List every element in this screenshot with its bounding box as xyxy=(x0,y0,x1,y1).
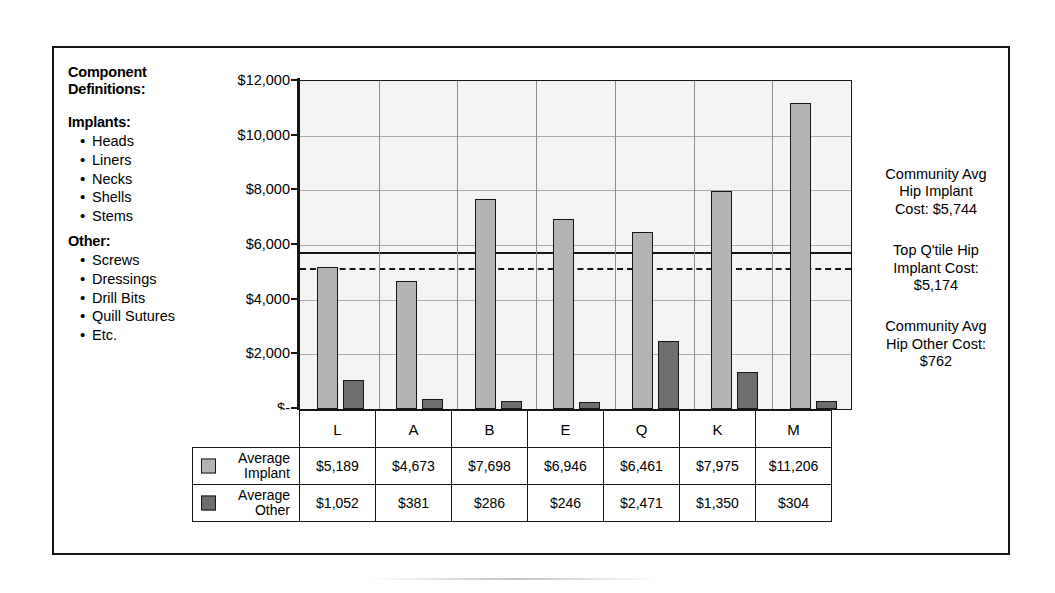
bar-Q-implant xyxy=(632,232,653,409)
category-label-L: L xyxy=(300,411,376,448)
scan-artifact xyxy=(370,578,660,580)
legend-swatch-implant-icon xyxy=(201,459,216,474)
category-divider xyxy=(615,81,616,409)
y-tick-mark xyxy=(291,352,299,354)
list-item: Shells xyxy=(80,189,243,206)
cell-E-other: $246 xyxy=(528,485,604,522)
gridline xyxy=(300,136,851,137)
bar-M-other xyxy=(816,401,837,409)
cell-K-implant: $7,975 xyxy=(680,448,756,485)
category-label-K: K xyxy=(680,411,756,448)
bar-A-other xyxy=(422,399,443,409)
plot-area xyxy=(299,80,852,410)
cell-B-other: $286 xyxy=(452,485,528,522)
list-item: Quill Sutures xyxy=(80,308,243,325)
figure-frame: Component Definitions: Implants: Heads L… xyxy=(52,46,1010,555)
bar-K-other xyxy=(737,372,758,409)
legend-row-implant: Average Implant xyxy=(193,448,300,485)
cell-L-implant: $5,189 xyxy=(300,448,376,485)
annotation-line: $5,174 xyxy=(866,277,1006,294)
reference-line-solid xyxy=(300,252,851,254)
y-tick-label: $12,000 xyxy=(238,72,290,88)
bar-L-other xyxy=(343,380,364,409)
series-label-line2: Other xyxy=(255,502,290,518)
table-row: Average Other $1,052$381$286$246$2,471$1… xyxy=(193,485,832,522)
list-item: Heads xyxy=(80,133,243,150)
category-divider xyxy=(457,81,458,409)
bar-L-implant xyxy=(317,267,338,409)
list-item: Liners xyxy=(80,152,243,169)
bar-M-implant xyxy=(790,103,811,409)
bar-K-implant xyxy=(711,191,732,409)
bar-E-other xyxy=(579,402,600,409)
list-item: Drill Bits xyxy=(80,290,243,307)
bar-B-implant xyxy=(475,199,496,409)
list-item: Necks xyxy=(80,171,243,188)
annotation-line: Cost: $5,744 xyxy=(866,201,1006,218)
data-table: LABEQKM Average Implant $5,189$4,673$7,6… xyxy=(192,410,832,522)
implants-list: Heads Liners Necks Shells Stems xyxy=(68,133,243,225)
y-tick-label: $10,000 xyxy=(238,127,290,143)
implants-heading: Implants: xyxy=(68,114,243,131)
annotation-line: Community Avg xyxy=(866,166,1006,183)
cell-M-implant: $11,206 xyxy=(756,448,832,485)
y-tick-label: $6,000 xyxy=(246,236,290,252)
bar-Q-other xyxy=(658,341,679,409)
y-tick-label: $8,000 xyxy=(246,181,290,197)
list-item: Dressings xyxy=(80,271,243,288)
annotation-line: Implant Cost: xyxy=(866,260,1006,277)
cell-L-other: $1,052 xyxy=(300,485,376,522)
bar-E-implant xyxy=(553,219,574,409)
y-tick-mark xyxy=(291,407,299,409)
category-label-A: A xyxy=(376,411,452,448)
component-definitions-panel: Component Definitions: Implants: Heads L… xyxy=(68,64,243,346)
cell-E-implant: $6,946 xyxy=(528,448,604,485)
category-label-M: M xyxy=(756,411,832,448)
bar-B-other xyxy=(501,401,522,409)
category-divider xyxy=(772,81,773,409)
annotation-top-quartile-implant: Top Q'tile Hip Implant Cost: $5,174 xyxy=(866,242,1006,294)
series-label-line1: Average xyxy=(238,450,290,466)
category-label-E: E xyxy=(528,411,604,448)
y-tick-mark xyxy=(291,79,299,81)
y-tick-label: $2,000 xyxy=(246,345,290,361)
reference-annotations-panel: Community Avg Hip Implant Cost: $5,744 T… xyxy=(866,166,1006,371)
table-corner-blank xyxy=(193,411,300,448)
cell-Q-implant: $6,461 xyxy=(604,448,680,485)
other-list: Screws Dressings Drill Bits Quill Suture… xyxy=(68,252,243,344)
cell-M-other: $304 xyxy=(756,485,832,522)
cell-K-other: $1,350 xyxy=(680,485,756,522)
annotation-line: Community Avg xyxy=(866,318,1006,335)
bar-A-implant xyxy=(396,281,417,409)
cell-A-other: $381 xyxy=(376,485,452,522)
gridline xyxy=(300,245,851,246)
cell-Q-other: $2,471 xyxy=(604,485,680,522)
bar-chart: $-$2,000$4,000$6,000$8,000$10,000$12,000 xyxy=(299,80,852,410)
category-divider xyxy=(379,81,380,409)
gridline xyxy=(300,300,851,301)
y-tick-mark xyxy=(291,188,299,190)
reference-line-dashed xyxy=(300,268,851,270)
definitions-title-line2: Definitions: xyxy=(68,81,243,98)
y-tick-mark xyxy=(291,134,299,136)
annotation-community-avg-implant: Community Avg Hip Implant Cost: $5,744 xyxy=(866,166,1006,218)
y-tick-mark xyxy=(291,298,299,300)
category-divider xyxy=(694,81,695,409)
table-row: Average Implant $5,189$4,673$7,698$6,946… xyxy=(193,448,832,485)
cell-B-implant: $7,698 xyxy=(452,448,528,485)
list-item: Stems xyxy=(80,208,243,225)
category-label-Q: Q xyxy=(604,411,680,448)
annotation-line: Hip Implant xyxy=(866,183,1006,200)
series-label-line1: Average xyxy=(238,487,290,503)
list-item: Etc. xyxy=(80,327,243,344)
gridline xyxy=(300,354,851,355)
category-label-B: B xyxy=(452,411,528,448)
gridline xyxy=(300,190,851,191)
annotation-line: Hip Other Cost: xyxy=(866,336,1006,353)
annotation-line: Top Q'tile Hip xyxy=(866,242,1006,259)
list-item: Screws xyxy=(80,252,243,269)
series-label-line2: Implant xyxy=(244,465,290,481)
definitions-title-line1: Component xyxy=(68,64,243,81)
cell-A-implant: $4,673 xyxy=(376,448,452,485)
y-axis-spine xyxy=(297,78,299,412)
